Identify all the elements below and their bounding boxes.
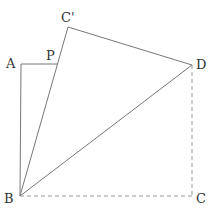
- label-P: P: [46, 48, 55, 63]
- label-B: B: [4, 191, 14, 206]
- segment-BC-prime: [20, 27, 68, 196]
- segment-AB: [20, 64, 21, 196]
- label-C-prime: C': [61, 10, 75, 25]
- label-D: D: [196, 57, 206, 72]
- geometry-diagram: A P C' D B C: [0, 0, 214, 216]
- segment-BD: [20, 65, 192, 196]
- label-A: A: [5, 56, 16, 71]
- label-C: C: [196, 191, 206, 206]
- segment-C-prime-D: [68, 27, 192, 65]
